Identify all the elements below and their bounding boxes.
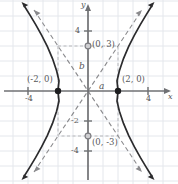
point-label-neg2-0: (-2, 0): [27, 75, 53, 84]
segment-label-a: a: [99, 82, 104, 91]
x-tick-label-4: 4: [146, 95, 151, 103]
point-label-0-neg3: (0, -3): [92, 138, 118, 147]
y-tick-label-4: 4: [75, 27, 80, 35]
hyperbola-figure: (0, 3) (0, -3) (-2, 0) (2, 0) -4 4 4 -2 …: [0, 0, 178, 184]
vertex-marker-2-0: [115, 88, 121, 94]
segment-label-b: b: [79, 62, 85, 71]
x-tick-label-neg4: -4: [25, 95, 33, 103]
covertex-marker-0-neg3: [85, 133, 91, 139]
graph-canvas: [0, 0, 178, 184]
point-label-2-0: (2, 0): [122, 75, 145, 84]
y-axis-label: y: [81, 1, 86, 9]
y-tick-label-neg4: -4: [71, 147, 79, 155]
x-axis-label: x: [168, 93, 173, 101]
covertex-marker-0-3: [85, 43, 91, 49]
vertex-marker-neg2-0: [55, 88, 61, 94]
y-tick-label-neg2: -2: [71, 117, 79, 125]
point-label-0-3: (0, 3): [92, 40, 115, 49]
